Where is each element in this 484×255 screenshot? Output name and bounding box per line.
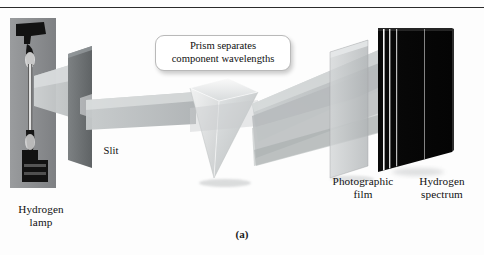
label-slit: Slit xyxy=(88,145,134,157)
hydrogen-spectrum-plate xyxy=(378,28,454,172)
label-film-line-2: film xyxy=(326,188,400,201)
label-photographic-film: Photographic film xyxy=(326,175,400,200)
label-film-line-1: Photographic xyxy=(326,175,400,188)
label-hydrogen-lamp: Hydrogen lamp xyxy=(2,203,80,228)
figure-panel: Prism separates component wavelengths Sl… xyxy=(0,0,484,255)
prism-callout: Prism separates component wavelengths xyxy=(155,35,291,71)
glass-prism xyxy=(190,78,258,178)
callout-line-1: Prism separates xyxy=(161,40,285,53)
label-lamp-line-2: lamp xyxy=(2,216,80,229)
label-lamp-line-1: Hydrogen xyxy=(2,203,80,216)
label-hydrogen-spectrum: Hydrogen spectrum xyxy=(406,175,478,200)
figure-caption: (a) xyxy=(207,228,277,240)
label-spectrum-line-1: Hydrogen xyxy=(406,175,478,188)
callout-line-2: component wavelengths xyxy=(161,53,285,66)
label-spectrum-line-2: spectrum xyxy=(406,188,478,201)
photographic-film-panel xyxy=(330,40,368,178)
